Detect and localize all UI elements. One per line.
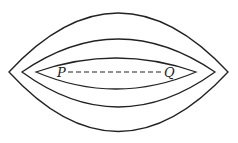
middle-contour xyxy=(22,39,215,107)
nested-lens-diagram: P Q xyxy=(0,0,238,143)
label-p: P xyxy=(56,65,66,80)
label-q: Q xyxy=(164,65,175,80)
